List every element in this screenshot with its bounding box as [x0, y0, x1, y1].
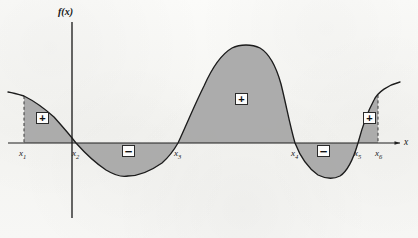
function-plot [0, 0, 418, 238]
region-positive-x1-x2 [24, 96, 76, 143]
sign-badge-positive-x5-x6: + [363, 112, 376, 124]
tick-label-x2: x2 [72, 148, 79, 160]
tick-label-x2-sub: 2 [76, 153, 79, 160]
sign-badge-positive-x1-x2: + [36, 112, 49, 124]
tick-label-x6-sub: 6 [379, 153, 382, 160]
tick-label-x4: x4 [291, 148, 298, 160]
tick-label-x5: x5 [354, 148, 361, 160]
sign-badge-negative-x4-x5: − [317, 145, 330, 157]
tick-label-x1-sub: 1 [23, 153, 26, 160]
tick-label-x3-sub: 3 [178, 153, 181, 160]
integral-sign-figure: f(x) x x1 x2 x3 x4 x5 x6 + − + − + [0, 0, 418, 238]
tick-label-x4-sub: 4 [295, 153, 298, 160]
y-axis-label: f(x) [58, 6, 73, 17]
sign-badge-positive-x3-x4: + [235, 93, 248, 105]
tick-label-x3: x3 [174, 148, 181, 160]
x-axis-arrow-icon [395, 141, 401, 145]
tick-label-x5-sub: 5 [358, 153, 361, 160]
x-axis-label: x [404, 137, 408, 147]
tick-label-x6: x6 [375, 148, 382, 160]
sign-badge-negative-x2-x3: − [122, 145, 135, 157]
tick-label-x1: x1 [19, 148, 26, 160]
